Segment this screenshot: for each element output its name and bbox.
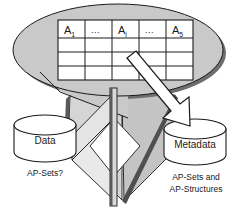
metadata-cylinder: Metadata [164,119,226,165]
table-header-cell-4: ... [145,25,154,35]
table-header-cell-2: ... [91,25,100,35]
data-cylinder: Data [14,115,76,162]
diagram-canvas: A1 ... Ai ... A5 [0,0,238,212]
metadata-caption-line-1: AP-Sets and [172,172,220,182]
attribute-table: A1 ... Ai ... A5 [58,20,193,80]
metadata-cylinder-top [164,119,226,139]
chevron-spine-shadow [110,88,113,206]
data-cylinder-label: Data [34,135,56,146]
data-caption-line-1: AP-Sets? [27,168,63,178]
diagram-svg: A1 ... Ai ... A5 [0,0,238,212]
data-cylinder-top [14,115,76,135]
metadata-caption-line-2: AP-Structures [170,184,223,194]
metadata-cylinder-label: Metadata [174,139,216,150]
